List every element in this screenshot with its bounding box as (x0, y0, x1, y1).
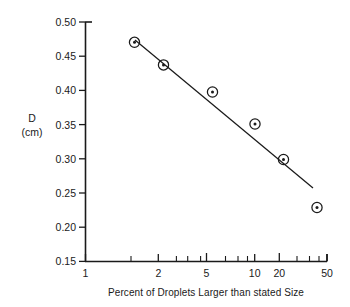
x-axis-minor-ticks (131, 256, 319, 261)
x-axis-title: Percent of Droplets Larger than stated S… (108, 287, 304, 298)
data-point (250, 119, 260, 129)
y-axis-tick-labels: 0.50 0.45 0.40 0.35 0.30 0.25 0.20 0.15 (56, 16, 77, 267)
trend-line (135, 40, 313, 188)
data-point (207, 87, 217, 97)
x-axis-tick-labels: 1 2 5 10 20 50 (83, 267, 333, 279)
y-tick-label: 0.30 (56, 153, 77, 165)
y-tick-label: 0.15 (56, 255, 77, 267)
x-tick-label: 2 (155, 267, 161, 279)
axis-lines (85, 22, 327, 262)
chart-figure: D (cm) 0.50 0.45 0.40 0.35 0.30 0 (0, 0, 350, 307)
x-tick-label: 50 (321, 267, 333, 279)
y-tick-label: 0.50 (56, 16, 77, 28)
y-axis-label-unit: (cm) (22, 126, 43, 138)
data-point (158, 60, 168, 70)
y-axis-label-name: D (28, 112, 36, 124)
x-tick-label: 20 (273, 267, 285, 279)
y-tick-label: 0.45 (56, 50, 77, 62)
data-point (312, 202, 322, 212)
y-tick-label: 0.35 (56, 119, 77, 131)
x-tick-label: 5 (204, 267, 210, 279)
x-tick-label: 10 (249, 267, 261, 279)
y-tick-label: 0.40 (56, 84, 77, 96)
x-tick-label: 1 (83, 267, 89, 279)
y-tick-label: 0.20 (56, 221, 77, 233)
y-tick-label: 0.25 (56, 187, 77, 199)
chart-canvas: D (cm) 0.50 0.45 0.40 0.35 0.30 0 (0, 0, 350, 307)
x-axis-ticks-secondary (207, 253, 280, 261)
data-points (129, 37, 322, 212)
